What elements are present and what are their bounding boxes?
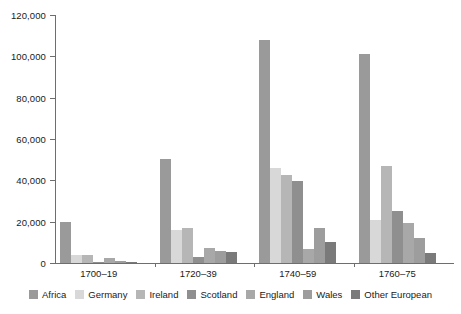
bar (160, 159, 171, 263)
bar (314, 228, 325, 263)
legend-item: Wales (303, 289, 342, 300)
bar (204, 248, 215, 264)
legend-label: Other European (364, 289, 432, 300)
bar (392, 211, 403, 263)
bar (104, 258, 115, 263)
bar-group (254, 15, 354, 263)
y-axis-tick-label: 80,000 (0, 93, 46, 104)
bar (359, 54, 370, 263)
bar (403, 223, 414, 263)
bar (292, 181, 303, 263)
legend-swatch (29, 290, 38, 299)
bar (115, 261, 126, 263)
x-axis-group-separator (354, 263, 355, 267)
legend-label: Scotland (200, 289, 237, 300)
legend-label: Africa (42, 289, 66, 300)
legend-label: England (259, 289, 294, 300)
y-axis-tick-label: 60,000 (0, 134, 46, 145)
legend-item: Other European (351, 289, 432, 300)
bar (182, 228, 193, 263)
x-axis-tick-label: 1740–59 (279, 268, 316, 279)
x-axis-tick-label: 1720–39 (180, 268, 217, 279)
y-axis-tick-label: 20,000 (0, 217, 46, 228)
bar-chart: 120,000100,00080,00060,00040,00020,0000 … (0, 0, 461, 314)
bar (215, 251, 226, 263)
bar (259, 40, 270, 263)
x-axis-group-separator (155, 263, 156, 267)
legend-swatch (187, 290, 196, 299)
bar (425, 253, 436, 263)
legend-label: Wales (316, 289, 342, 300)
bar (171, 230, 182, 263)
legend-label: Ireland (149, 289, 178, 300)
bar (370, 220, 381, 263)
y-axis-tick-label: 0 (0, 258, 46, 269)
legend-item: Ireland (136, 289, 178, 300)
bar-group (55, 15, 155, 263)
legend-item: Scotland (187, 289, 237, 300)
bar (325, 242, 336, 263)
bar (281, 175, 292, 263)
legend-swatch (303, 290, 312, 299)
bar (381, 166, 392, 263)
bar (93, 262, 104, 263)
bar-group (354, 15, 454, 263)
x-axis-group-separator (254, 263, 255, 267)
bar (414, 238, 425, 263)
x-axis-tick-label: 1760–75 (379, 268, 416, 279)
legend-item: Germany (75, 289, 127, 300)
legend-swatch (351, 290, 360, 299)
bar (270, 168, 281, 263)
bar (60, 222, 71, 263)
bar (82, 255, 93, 263)
bar (71, 255, 82, 263)
legend-swatch (246, 290, 255, 299)
bar-group (155, 15, 255, 263)
y-axis-tick-label: 100,000 (0, 51, 46, 62)
legend-label: Germany (88, 289, 127, 300)
legend-item: Africa (29, 289, 66, 300)
y-axis-tick-label: 120,000 (0, 10, 46, 21)
bar (126, 262, 137, 263)
legend: AfricaGermanyIrelandScotlandEnglandWales… (0, 289, 461, 300)
x-axis-tick-label: 1700–19 (80, 268, 117, 279)
legend-item: England (246, 289, 294, 300)
bar (193, 257, 204, 263)
bar (226, 252, 237, 263)
legend-swatch (75, 290, 84, 299)
y-axis-tick-label: 40,000 (0, 175, 46, 186)
bar (303, 249, 314, 263)
legend-swatch (136, 290, 145, 299)
plot-area (55, 15, 453, 263)
